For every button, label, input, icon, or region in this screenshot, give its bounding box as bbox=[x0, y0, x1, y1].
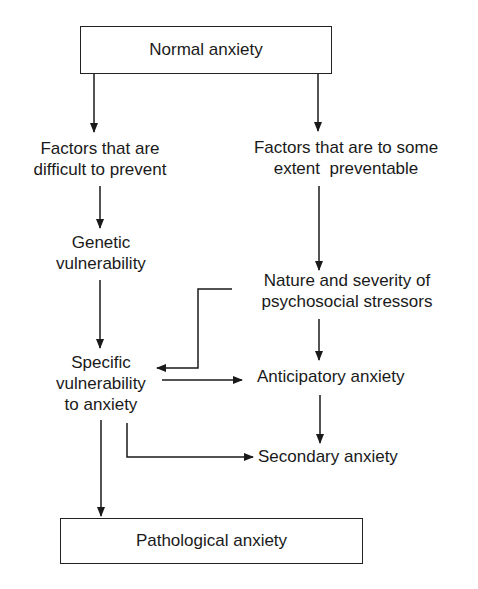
node-pathological-anxiety: Pathological anxiety bbox=[60, 518, 363, 564]
node-psychosocial-stressors: Nature and severity of psychosocial stre… bbox=[236, 270, 458, 312]
node-line: extent preventable bbox=[226, 158, 466, 179]
node-line: Specific bbox=[36, 352, 166, 373]
arrow-stressors-to-specific bbox=[157, 289, 232, 368]
node-genetic-vulnerability: Genetic vulnerability bbox=[31, 232, 171, 274]
node-line: Factors that are to some bbox=[226, 137, 466, 158]
node-line: vulnerability bbox=[36, 373, 166, 394]
node-preventable: Factors that are to some extent preventa… bbox=[226, 137, 466, 179]
node-difficult-to-prevent: Factors that are difficult to prevent bbox=[0, 138, 200, 180]
node-specific-vulnerability: Specific vulnerability to anxiety bbox=[36, 352, 166, 415]
node-pathological-anxiety-label: Pathological anxiety bbox=[136, 531, 287, 551]
node-line: Genetic bbox=[31, 232, 171, 253]
node-line: vulnerability bbox=[31, 253, 171, 274]
node-secondary-label: Secondary anxiety bbox=[258, 447, 398, 466]
node-anticipatory-anxiety: Anticipatory anxiety bbox=[257, 366, 404, 387]
node-line: psychosocial stressors bbox=[236, 291, 458, 312]
node-anticipatory-label: Anticipatory anxiety bbox=[257, 367, 404, 386]
node-secondary-anxiety: Secondary anxiety bbox=[258, 446, 398, 467]
node-normal-anxiety: Normal anxiety bbox=[80, 26, 332, 74]
node-line: Nature and severity of bbox=[236, 270, 458, 291]
node-line: Factors that are bbox=[0, 138, 200, 159]
node-line: to anxiety bbox=[36, 394, 166, 415]
node-normal-anxiety-label: Normal anxiety bbox=[149, 40, 262, 60]
node-line: difficult to prevent bbox=[0, 159, 200, 180]
arrow-specific-to-secondary bbox=[127, 423, 253, 457]
